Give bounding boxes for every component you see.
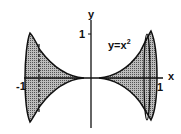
x-tick-left-label: -1 — [16, 81, 26, 92]
curve-label-text: y=x — [108, 39, 127, 51]
diagram-canvas — [0, 0, 181, 134]
y-axis-label: y — [88, 9, 94, 20]
y-tick-label: 1 — [79, 29, 85, 40]
x-axis-label: x — [168, 71, 174, 82]
x-tick-right-label: 1 — [157, 82, 163, 93]
curve-label: y=x2 — [108, 38, 131, 51]
curve-label-exponent: 2 — [127, 38, 131, 45]
